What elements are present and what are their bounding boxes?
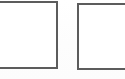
- scanned-form-canvas: [0, 0, 125, 79]
- left-checkbox-field[interactable]: [0, 1, 58, 69]
- right-checkbox-field[interactable]: [77, 3, 125, 70]
